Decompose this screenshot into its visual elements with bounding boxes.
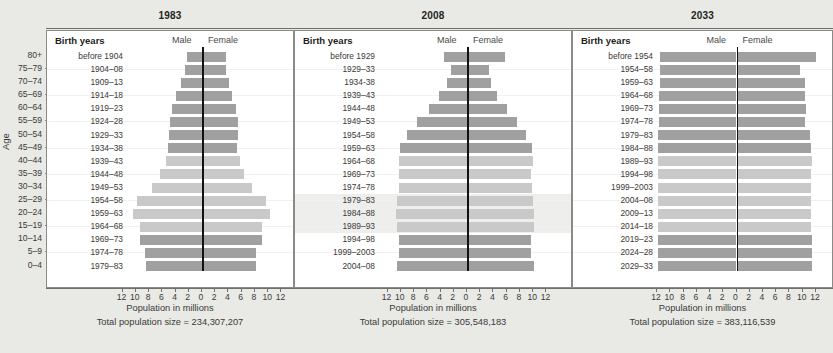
male-bar — [399, 248, 467, 258]
female-bar — [737, 169, 811, 179]
birth-years-label: 1939–43 — [47, 156, 123, 167]
pyramid-row: 1964–68 — [295, 155, 571, 168]
bar-rows: before 19541954–581959–631964–681969–731… — [573, 50, 832, 273]
female-bar — [202, 52, 226, 62]
pyramid-row: 1959–63 — [47, 207, 293, 220]
birth-years-label: 2014–18 — [573, 221, 653, 232]
x-axis-rule — [572, 288, 833, 289]
birth-years-label: 1989–93 — [573, 156, 653, 167]
age-label-row: 60–64 — [0, 101, 46, 114]
birth-years-label: 1914–18 — [47, 90, 123, 101]
male-bar — [397, 261, 467, 271]
birth-years-label: 1959–63 — [47, 208, 123, 219]
birth-years-label: 1974–78 — [573, 116, 653, 127]
age-label-row: 25–29 — [0, 193, 46, 206]
birth-years-label: 1929–33 — [295, 64, 375, 75]
birth-years-label: 1994–98 — [295, 234, 375, 245]
population-pyramid-figure: 198320082033 Age 80+75–7970–7465–6960–64… — [0, 0, 833, 353]
female-bar — [737, 156, 812, 166]
male-bar — [146, 261, 202, 271]
pyramid-row: 1999–2003 — [295, 246, 571, 259]
pyramid-row: 2019–23 — [573, 233, 832, 246]
pyramid-row: 1944–48 — [295, 102, 571, 115]
male-bar — [439, 91, 467, 101]
pyramid-row: 1924–28 — [47, 115, 293, 128]
pyramid-row: 1949–53 — [47, 181, 293, 194]
male-bar — [659, 91, 736, 101]
panel-title-2033: 2033 — [572, 10, 833, 21]
pyramid-row: 1934-38 — [295, 76, 571, 89]
pyramid-row: 1989–93 — [295, 220, 571, 233]
pyramid-row: 1989–93 — [573, 155, 832, 168]
bar-rows: before 19291929–331934-381939–431944–481… — [295, 50, 571, 273]
pyramid-row: 1904–08 — [47, 63, 293, 76]
female-bar — [737, 196, 812, 206]
female-bar — [737, 235, 812, 245]
female-bar — [467, 248, 531, 258]
pyramid-row: 1979–83 — [295, 194, 571, 207]
pyramid-row: 1979–83 — [573, 129, 832, 142]
pyramid-panel-2033: Birth yearsMaleFemalebefore 19541954–581… — [572, 30, 833, 317]
pyramid-row: 1984–88 — [295, 207, 571, 220]
birth-years-label: 1999–2003 — [295, 247, 375, 258]
female-bar — [467, 196, 533, 206]
age-label-row: 10–14 — [0, 232, 46, 245]
pyramid-row: 2004–08 — [295, 260, 571, 273]
birth-years-label: 1964–68 — [573, 90, 653, 101]
female-bar — [202, 78, 229, 88]
zero-axis-line — [467, 47, 469, 271]
pyramid-row: 1964–68 — [47, 220, 293, 233]
birth-years-label: 1909–13 — [47, 77, 123, 88]
male-bar — [658, 209, 737, 219]
birth-years-header: Birth years — [303, 35, 353, 49]
age-group-label: 35–39 — [18, 168, 42, 179]
x-axis-rule — [294, 288, 572, 289]
x-axis: 12108642024681012Population in millionsT… — [572, 288, 833, 314]
female-bar — [467, 52, 505, 62]
male-bar — [658, 235, 737, 245]
male-bar — [399, 156, 467, 166]
male-bar — [170, 117, 202, 127]
female-column-header: Female — [743, 35, 773, 49]
female-bar — [467, 65, 489, 75]
panel-title-2008: 2008 — [294, 10, 572, 21]
panel-title-rule — [572, 28, 833, 29]
zero-axis-line — [202, 47, 204, 271]
age-group-label: 75–79 — [18, 63, 42, 74]
pyramid-row: 1909–13 — [47, 76, 293, 89]
age-group-label: 30–34 — [18, 181, 42, 192]
panel-title-rule — [46, 28, 294, 29]
male-bar — [399, 169, 467, 179]
male-bar — [658, 156, 737, 166]
birth-years-label: 2024–28 — [573, 247, 653, 258]
pyramid-row: 2029–33 — [573, 260, 832, 273]
male-bar — [407, 130, 467, 140]
age-group-label: 45–49 — [18, 142, 42, 153]
female-bar — [467, 222, 534, 232]
age-label-row: 0–4 — [0, 259, 46, 272]
birth-years-label: 1954–58 — [573, 64, 653, 75]
birth-years-label: 2004–08 — [573, 195, 653, 206]
male-bar — [660, 78, 737, 88]
male-bar — [658, 196, 737, 206]
birth-years-label: 1904–08 — [47, 64, 123, 75]
female-bar — [202, 91, 232, 101]
pyramid-row: 1919–23 — [47, 102, 293, 115]
age-group-label: 10–14 — [18, 233, 42, 244]
pyramid-row: 1984–88 — [573, 142, 832, 155]
pyramid-row: 1939–43 — [295, 89, 571, 102]
male-bar — [160, 169, 202, 179]
female-bar — [737, 130, 810, 140]
pyramid-row: 2014–18 — [573, 220, 832, 233]
pyramid-row: 1934–38 — [47, 142, 293, 155]
female-bar — [737, 209, 812, 219]
male-column-header: Male — [437, 35, 457, 49]
male-bar — [187, 52, 202, 62]
birth-years-label: before 1954 — [573, 51, 653, 62]
pyramid-row: before 1929 — [295, 50, 571, 63]
age-label-row: 50–54 — [0, 128, 46, 141]
age-axis-labels: 80+75–7970–7465–6960–6455–5950–5445–4940… — [0, 49, 46, 272]
male-bar — [397, 196, 467, 206]
male-bar — [137, 196, 202, 206]
birth-years-label: 1944–48 — [295, 103, 375, 114]
